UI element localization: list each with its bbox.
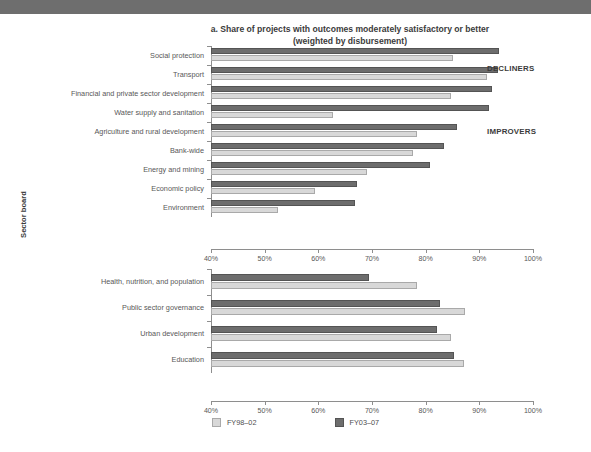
category-label: Public sector governance bbox=[0, 295, 204, 321]
x-axis-tick-label: 80% bbox=[406, 255, 446, 263]
category-tick bbox=[207, 160, 211, 161]
bar-row: Public sector governance bbox=[211, 295, 533, 321]
bar-fy03-07 bbox=[211, 86, 492, 92]
bar-row: Water supply and sanitation bbox=[211, 103, 533, 122]
category-tick bbox=[207, 122, 211, 123]
bar-fy98-02 bbox=[211, 360, 464, 367]
bar-row: Environment bbox=[211, 198, 533, 217]
x-axis-tick bbox=[479, 401, 480, 405]
bar-fy03-07 bbox=[211, 181, 357, 187]
bar-fy03-07 bbox=[211, 326, 437, 333]
bar-row: Financial and private sector development bbox=[211, 84, 533, 103]
top-banner-bar bbox=[0, 0, 591, 14]
bar-fy03-07 bbox=[211, 143, 444, 149]
category-label: Energy and mining bbox=[0, 160, 204, 179]
bar-rows-decliners: Health, nutrition, and populationPublic … bbox=[211, 269, 533, 373]
x-axis-tick-label: 50% bbox=[245, 255, 285, 263]
x-axis-tick bbox=[265, 249, 266, 253]
category-label: Agriculture and rural development bbox=[0, 122, 204, 141]
x-axis-tick-label: 90% bbox=[459, 407, 499, 415]
bar-row: Bank-wide bbox=[211, 141, 533, 160]
bar-fy03-07 bbox=[211, 352, 454, 359]
bar-fy03-07 bbox=[211, 124, 457, 130]
x-axis-tick bbox=[372, 249, 373, 253]
x-axis-tick-label: 50% bbox=[245, 407, 285, 415]
x-axis-tick-label: 70% bbox=[352, 407, 392, 415]
bar-fy98-02 bbox=[211, 131, 417, 137]
legend-item-fy03-07: FY03–07 bbox=[335, 418, 380, 427]
category-tick bbox=[207, 269, 211, 270]
category-tick bbox=[207, 84, 211, 85]
category-label: Bank-wide bbox=[0, 141, 204, 160]
category-tick bbox=[207, 103, 211, 104]
x-axis-tick-label: 90% bbox=[459, 255, 499, 263]
bar-fy98-02 bbox=[211, 308, 465, 315]
x-axis-tick-label: 60% bbox=[298, 407, 338, 415]
bar-fy98-02 bbox=[211, 169, 367, 175]
category-tick bbox=[207, 141, 211, 142]
bar-fy03-07 bbox=[211, 200, 355, 206]
group-annotation-decliners: DECLINERS bbox=[487, 64, 534, 73]
category-label: Environment bbox=[0, 198, 204, 217]
bar-fy03-07 bbox=[211, 105, 489, 111]
category-tick bbox=[207, 65, 211, 66]
bar-fy98-02 bbox=[211, 188, 315, 194]
bar-row: Urban development bbox=[211, 321, 533, 347]
x-axis-tick bbox=[426, 401, 427, 405]
bar-fy98-02 bbox=[211, 282, 417, 289]
group-annotation-improvers: IMPROVERS bbox=[487, 127, 536, 136]
bar-fy98-02 bbox=[211, 93, 451, 99]
chart-title: a. Share of projects with outcomes moder… bbox=[150, 23, 550, 47]
x-axis-tick bbox=[479, 249, 480, 253]
bar-row: Health, nutrition, and population bbox=[211, 269, 533, 295]
category-label: Financial and private sector development bbox=[0, 84, 204, 103]
x-axis-tick-label: 70% bbox=[352, 255, 392, 263]
panel-decliners: Health, nutrition, and populationPublic … bbox=[0, 269, 591, 419]
legend-item-fy98-02: FY98–02 bbox=[212, 418, 257, 427]
x-axis-tick bbox=[211, 401, 212, 405]
x-axis-tick bbox=[318, 249, 319, 253]
x-axis-improvers: 40%50%60%70%80%90%100% bbox=[211, 249, 533, 250]
category-tick bbox=[207, 295, 211, 296]
chart-title-line1: a. Share of projects with outcomes moder… bbox=[211, 24, 489, 34]
x-axis-tick-label: 100% bbox=[513, 407, 553, 415]
legend-swatch-icon-fy03-07 bbox=[335, 418, 344, 427]
panel-improvers: Social protectionTransportFinancial and … bbox=[0, 46, 591, 251]
category-label: Transport bbox=[0, 65, 204, 84]
category-tick bbox=[207, 321, 211, 322]
x-axis-tick-label: 40% bbox=[191, 407, 231, 415]
x-axis-tick bbox=[265, 401, 266, 405]
x-axis-tick bbox=[533, 249, 534, 253]
bar-fy98-02 bbox=[211, 334, 451, 341]
category-tick bbox=[207, 198, 211, 199]
x-axis-tick-label: 80% bbox=[406, 407, 446, 415]
bar-row: Economic policy bbox=[211, 179, 533, 198]
bar-row: Social protection bbox=[211, 46, 533, 65]
category-label: Water supply and sanitation bbox=[0, 103, 204, 122]
x-axis-tick-label: 100% bbox=[513, 255, 553, 263]
category-tick bbox=[207, 179, 211, 180]
bar-row: Agriculture and rural development bbox=[211, 122, 533, 141]
category-label: Education bbox=[0, 347, 204, 373]
plot-area-improvers: Social protectionTransportFinancial and … bbox=[211, 46, 533, 217]
legend-swatch-icon-fy98-02 bbox=[212, 418, 221, 427]
category-tick bbox=[207, 46, 211, 47]
bar-fy98-02 bbox=[211, 55, 453, 61]
category-label: Economic policy bbox=[0, 179, 204, 198]
x-axis-tick bbox=[533, 401, 534, 405]
bar-fy98-02 bbox=[211, 112, 333, 118]
x-axis-decliners: 40%50%60%70%80%90%100% bbox=[211, 401, 533, 402]
legend-label-fy03-07: FY03–07 bbox=[350, 418, 380, 427]
bar-fy98-02 bbox=[211, 150, 413, 156]
category-label: Social protection bbox=[0, 46, 204, 65]
x-axis-tick-label: 60% bbox=[298, 255, 338, 263]
x-axis-tick bbox=[372, 401, 373, 405]
category-tick bbox=[207, 347, 211, 348]
bar-fy03-07 bbox=[211, 162, 430, 168]
bar-rows-improvers: Social protectionTransportFinancial and … bbox=[211, 46, 533, 217]
bar-fy98-02 bbox=[211, 74, 487, 80]
chart-legend: FY98–02 FY03–07 bbox=[0, 418, 591, 427]
bar-fy03-07 bbox=[211, 300, 440, 307]
x-axis-tick bbox=[211, 249, 212, 253]
category-label: Urban development bbox=[0, 321, 204, 347]
